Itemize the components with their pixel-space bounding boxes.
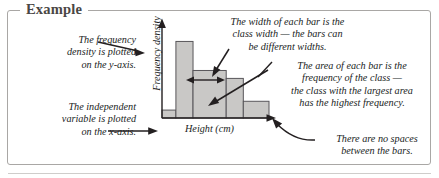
up-arrow-icon (158, 19, 166, 29)
histogram-bar (226, 78, 243, 118)
annotation-bar-area: The area of each bar is the frequency of… (266, 60, 438, 110)
histogram-bar (176, 41, 193, 118)
histogram-bar (243, 101, 269, 118)
histogram-plot-area (148, 18, 278, 138)
annotation-no-spaces: There are no spaces between the bars. (318, 133, 436, 158)
histogram-bar (162, 110, 176, 118)
annotation-independent-variable: The independent variable is plotted on t… (14, 101, 136, 138)
annotation-frequency-density: The frequency density is plotted on the … (14, 34, 136, 71)
histogram-chart: Frequency density Height (cm) (148, 18, 278, 138)
example-panel-legend: Example (20, 2, 88, 17)
page-divider (8, 173, 431, 174)
histogram-bar (193, 70, 226, 118)
right-arrow-icon (267, 114, 277, 122)
histogram-bars (162, 41, 269, 118)
